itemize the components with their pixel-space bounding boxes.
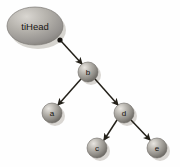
edge-d-to-e[interactable] — [131, 120, 150, 140]
edge-layer — [58, 41, 150, 140]
head-pointer-group[interactable]: tiHead — [7, 7, 63, 45]
head-pointer-ellipse[interactable] — [7, 7, 63, 45]
edge-b-to-a[interactable] — [58, 79, 81, 105]
tree-node-c[interactable]: c — [87, 138, 107, 158]
node-circle-c[interactable] — [87, 138, 107, 158]
edge-d-to-c[interactable] — [104, 120, 117, 140]
tree-node-b[interactable]: b — [78, 62, 98, 82]
node-circle-d[interactable] — [114, 103, 134, 123]
binary-tree-diagram: tiHead b a d — [0, 0, 180, 167]
tree-node-d[interactable]: d — [114, 103, 134, 123]
node-layer: b a d c e — [42, 62, 167, 158]
edge-head-to-b[interactable] — [61, 41, 82, 64]
tree-node-a[interactable]: a — [42, 103, 62, 123]
tree-canvas: tiHead b a d — [0, 0, 180, 167]
node-circle-b[interactable] — [78, 62, 98, 82]
node-circle-a[interactable] — [42, 103, 62, 123]
edge-b-to-d[interactable] — [95, 79, 118, 105]
tree-node-e[interactable]: e — [147, 138, 167, 158]
node-circle-e[interactable] — [147, 138, 167, 158]
